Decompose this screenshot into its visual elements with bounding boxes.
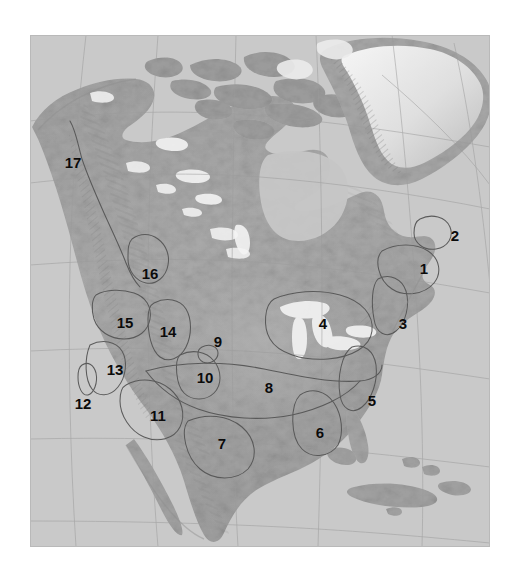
map-label-5: 5 bbox=[368, 393, 376, 408]
map-label-12: 12 bbox=[75, 396, 92, 411]
map-label-10: 10 bbox=[197, 370, 214, 385]
map-label-15: 15 bbox=[117, 315, 134, 330]
map-canvas bbox=[30, 35, 490, 547]
map-label-1: 1 bbox=[420, 261, 428, 276]
map-label-9: 9 bbox=[214, 334, 222, 349]
map-label-8: 8 bbox=[265, 380, 273, 395]
map-label-6: 6 bbox=[316, 425, 324, 440]
map-label-11: 11 bbox=[150, 408, 166, 423]
map-label-14: 14 bbox=[160, 324, 177, 339]
map-label-3: 3 bbox=[399, 316, 407, 331]
map-label-16: 16 bbox=[142, 266, 159, 281]
bahamas-2 bbox=[422, 465, 440, 476]
map-label-7: 7 bbox=[218, 436, 226, 451]
great-lakes-michigan bbox=[292, 317, 307, 359]
map-label-17: 17 bbox=[65, 155, 82, 170]
map-label-2: 2 bbox=[451, 228, 459, 243]
map-label-4: 4 bbox=[319, 316, 327, 331]
figure-page: 17 16 15 14 13 12 11 10 9 8 7 6 5 4 3 2 … bbox=[0, 0, 519, 574]
north-america-relief-map: 17 16 15 14 13 12 11 10 9 8 7 6 5 4 3 2 … bbox=[30, 35, 490, 547]
map-layers bbox=[30, 35, 490, 547]
map-label-13: 13 bbox=[107, 362, 124, 377]
